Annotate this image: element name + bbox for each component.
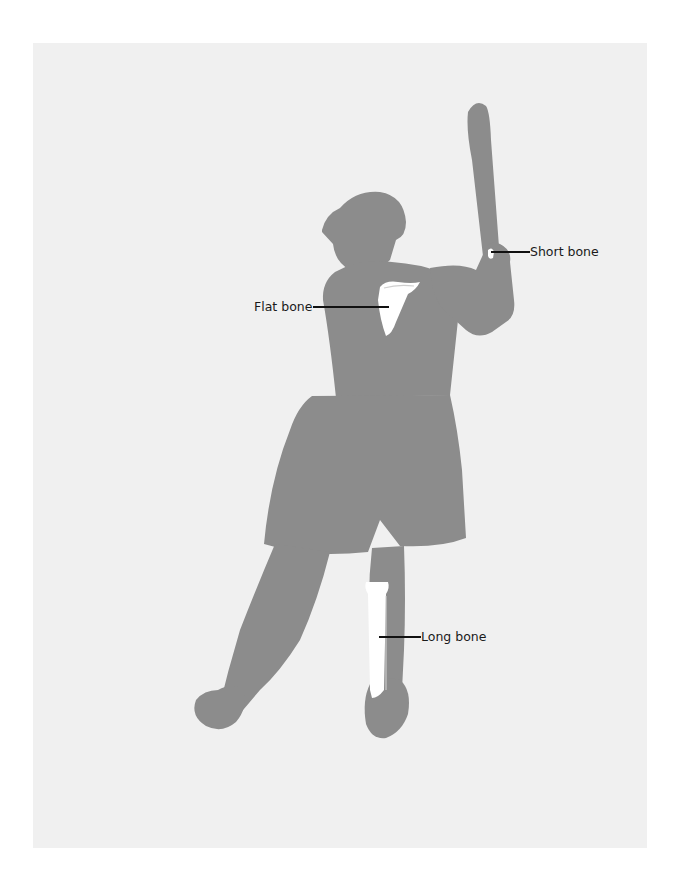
short-bone-label: Short bone [530,245,599,259]
batter-figure [0,0,685,882]
long-bone-leader-line [379,636,421,638]
long-bone-label: Long bone [421,630,486,644]
left-shoe [194,686,245,729]
flat-bone-label: Flat bone [254,300,312,314]
shorts [264,395,466,554]
flat-bone-leader-line [313,306,389,308]
short-bone-leader-line [491,251,530,253]
helmet [322,192,406,272]
